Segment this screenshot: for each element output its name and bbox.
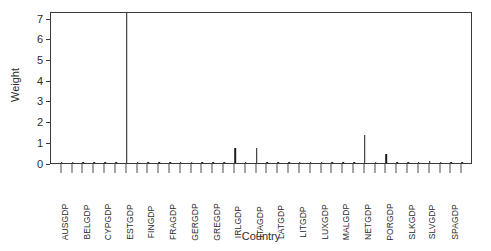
bar [310,162,312,163]
x-tick-mark [114,164,115,173]
x-tick-label-SPAGDP: SPAGDP [444,174,456,228]
plot-area [50,12,472,164]
x-tick-mark [320,164,321,173]
y-tick-label: 5 [37,55,46,66]
bar [396,162,398,163]
x-tick-mark [93,164,94,173]
x-tick-mark [461,164,462,173]
x-tick-mark [309,164,310,173]
y-axis-ticks: 01234567 [24,12,50,164]
y-axis-title: Weight [8,0,22,170]
y-tick-label: 4 [37,75,46,86]
x-tick-label-GERGDP: GERGDP [185,174,197,228]
bar [375,162,377,163]
x-axis-labels: AUSGDPBELGDPCYPGDPESTGDPFINGDPFRAGDPGERG… [50,174,472,228]
chart-figure: Weight 01234567 AUSGDPBELGDPCYPGDPESTGDP… [0,0,491,251]
x-tick-mark [190,164,191,173]
y-tick-label: 2 [37,117,46,128]
bar [407,162,409,163]
bar [148,162,150,163]
x-tick-label-MALGDP: MALGDP [336,174,348,228]
x-tick-mark [428,164,429,173]
x-tick-label-SLKGDP: SLKGDP [401,174,413,228]
x-tick-label-AUSGDP: AUSGDP [55,174,67,228]
x-tick-mark [147,164,148,173]
bar [158,162,160,163]
x-tick-label-BELGDP: BELGDP [76,174,88,228]
bar [461,162,463,163]
x-tick-mark [169,164,170,173]
y-axis-title-label: Weight [9,68,21,102]
x-tick-label-LUXGDP: LUXGDP [315,174,327,228]
x-tick-mark [233,164,234,173]
bar [93,162,95,163]
x-tick-mark [439,164,440,173]
bar [202,162,204,163]
x-axis-title: Country [50,230,472,242]
x-tick-label-ITAGDP: ITAGDP [250,174,262,228]
x-tick-mark [136,164,137,173]
x-tick-label-NETGDP: NETGDP [358,174,370,228]
x-tick-mark [407,164,408,173]
bar [418,162,420,163]
x-tick-mark [266,164,267,173]
x-tick-mark [104,164,105,173]
x-tick-label-PORGDP: PORGDP [379,174,391,228]
x-tick-mark [342,164,343,173]
x-tick-mark [179,164,180,173]
bar [440,162,442,163]
x-tick-mark [255,164,256,173]
bar [256,148,258,163]
x-tick-mark [363,164,364,173]
x-tick-mark [71,164,72,173]
x-tick-mark [60,164,61,173]
x-tick-label-ESTGDP: ESTGDP [120,174,132,228]
y-tick-label: 0 [37,158,46,169]
bar [223,162,225,163]
x-tick-mark [385,164,386,173]
y-tick-label: 6 [37,34,46,45]
x-tick-mark [374,164,375,173]
bar [137,162,139,163]
x-tick-mark [298,164,299,173]
bar [299,162,301,163]
x-tick-mark [331,164,332,173]
bar [321,162,323,163]
x-tick-mark [277,164,278,173]
x-tick-label-CYPGDP: CYPGDP [98,174,110,228]
bar [245,162,247,163]
x-tick-mark [352,164,353,173]
bar [169,162,171,163]
x-tick-mark [396,164,397,173]
bar [353,162,355,163]
x-tick-label-FRAGDP: FRAGDP [163,174,175,228]
bar [288,162,290,163]
x-tick-mark [82,164,83,173]
bar [451,162,453,163]
y-tick-label: 3 [37,96,46,107]
x-tick-mark [201,164,202,173]
bar [332,162,334,163]
x-tick-label-LITGDP: LITGDP [293,174,305,228]
x-tick-label-GREGDP: GREGDP [206,174,218,228]
bar [213,162,215,163]
bar [364,135,366,163]
bar [180,162,182,163]
bar [104,162,106,163]
bar [342,162,344,163]
x-tick-label-IRLGDP: IRLGDP [228,174,240,228]
y-tick-label: 1 [37,137,46,148]
x-tick-mark [450,164,451,173]
x-tick-mark [288,164,289,173]
bar [126,12,128,163]
bar [386,154,388,163]
x-tick-mark [125,164,126,173]
x-tick-mark [417,164,418,173]
bar [429,161,431,163]
x-tick-mark [212,164,213,173]
bar [72,162,74,163]
bar [277,162,279,163]
bar [115,162,117,163]
y-tick-label: 7 [37,13,46,24]
x-axis-ticks [50,164,472,174]
